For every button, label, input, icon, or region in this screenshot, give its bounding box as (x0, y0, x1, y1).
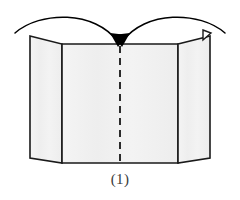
left-panel (30, 36, 62, 163)
figure-caption: (1) (0, 170, 240, 188)
figure-root: (1) (0, 0, 240, 200)
right-panel (178, 36, 210, 163)
